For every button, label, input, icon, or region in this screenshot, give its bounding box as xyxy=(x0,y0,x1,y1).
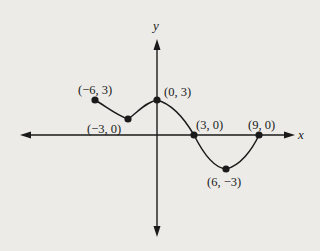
label-point-neg3-0: (−3, 0) xyxy=(87,122,121,136)
label-point-6-neg3: (6, −3) xyxy=(207,175,241,189)
point-neg3-0 xyxy=(124,115,131,122)
y-axis xyxy=(154,39,161,237)
x-axis-label: x xyxy=(297,127,304,142)
x-axis-right-arrow-icon xyxy=(284,132,295,139)
x-axis-left-arrow-icon xyxy=(20,132,31,139)
y-axis-down-arrow-icon xyxy=(154,226,161,237)
label-point-3-0: (3, 0) xyxy=(196,118,223,132)
point-neg6-3 xyxy=(91,96,98,103)
label-point-0-3: (0, 3) xyxy=(164,85,191,99)
point-3-0 xyxy=(190,131,197,138)
y-axis-label: y xyxy=(151,18,159,33)
point-9-0 xyxy=(255,131,262,138)
graph: x y (−6, 3) (−3, 0) (0, 3) (3, 0) (6, −3… xyxy=(0,0,320,251)
point-6-neg3 xyxy=(222,165,229,172)
point-0-3 xyxy=(153,96,160,103)
label-point-neg6-3: (−6, 3) xyxy=(78,83,112,97)
y-axis-up-arrow-icon xyxy=(154,39,161,50)
label-point-9-0: (9, 0) xyxy=(248,118,275,132)
